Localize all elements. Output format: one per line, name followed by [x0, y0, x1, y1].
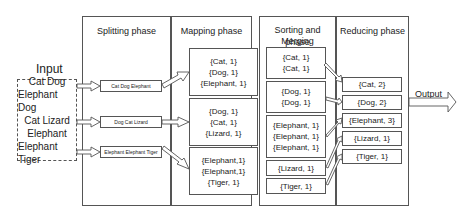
arrow-icon — [324, 63, 342, 82]
arrow-icon — [162, 72, 189, 88]
arrow-icon — [326, 97, 342, 105]
arrow-icon — [326, 118, 342, 137]
flow-arrows — [0, 0, 460, 215]
arrow-icon — [162, 117, 189, 127]
arrow-icon — [77, 147, 100, 157]
arrow-icon — [162, 146, 189, 169]
arrow-icon — [326, 136, 342, 168]
arrow-icon — [326, 154, 342, 185]
arrow-icon — [77, 117, 100, 127]
output-arrow-icon — [409, 92, 456, 112]
arrow-icon — [77, 81, 100, 91]
